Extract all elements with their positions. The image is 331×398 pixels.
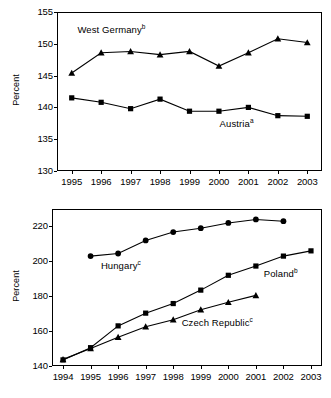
series-label-text: Austria [220,118,250,129]
series-label-footnote: b [294,267,298,274]
figure-two-panel-line-charts: Percent 130135140145150155 1995199619971… [0,0,331,398]
series-label-text: Hungary [101,260,138,271]
series-label-footnote: b [142,23,146,30]
series-label-footnote: a [250,117,254,124]
series-label-footnote: c [138,259,141,266]
series-line [91,219,284,256]
series-label-text: Czech Republic [182,317,250,328]
chart-panel-top: Percent 130135140145150155 1995199619971… [0,0,331,198]
series-label: West Germanyb [77,23,145,35]
series-line [72,39,308,73]
series-label: Austriaa [220,117,254,129]
series-label-footnote: c [250,316,253,323]
series-canvas-top [0,0,331,198]
series-canvas-bottom [0,198,331,398]
series-label-text: West Germany [77,25,141,36]
series-label: Hungaryc [101,259,141,271]
series-label-text: Poland [264,269,294,280]
series-label: Polandb [264,267,298,279]
series-label: Czech Republicc [182,316,253,328]
chart-panel-bottom: Percent 140160180200220 1994199519961997… [0,198,331,398]
